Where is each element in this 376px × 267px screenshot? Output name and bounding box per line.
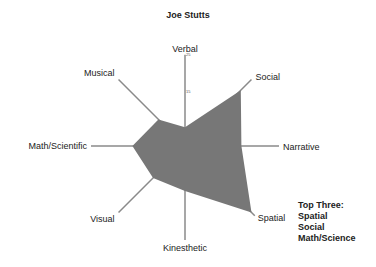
- data-polygon: [132, 90, 251, 212]
- top-three-annotation: Top Three: Spatial Social Math/Science: [298, 200, 356, 244]
- axis-label-kinesthetic: Kinesthetic: [163, 243, 207, 253]
- axis-label-visual: Visual: [90, 214, 114, 224]
- tick-labels: 2515: [186, 52, 191, 94]
- annotation-item: Math/Science: [298, 233, 356, 244]
- annotation-item: Spatial: [298, 211, 356, 222]
- annotation-item: Social: [298, 222, 356, 233]
- annotation-heading: Top Three:: [298, 200, 356, 211]
- axis-label-social: Social: [255, 72, 280, 82]
- axis-label-math-scientific: Math/Scientific: [28, 141, 87, 151]
- tick-label: 15: [186, 89, 191, 94]
- axis-label-musical: Musical: [84, 68, 115, 78]
- axis-label-verbal: Verbal: [172, 44, 198, 54]
- axis-label-spatial: Spatial: [258, 213, 286, 223]
- axis-label-narrative: Narrative: [283, 142, 320, 152]
